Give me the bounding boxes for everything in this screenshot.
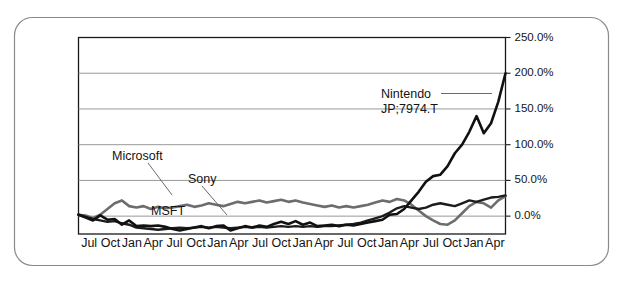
y-tick-label: 50.0% [515, 173, 548, 185]
x-tick-label: Jan [293, 236, 313, 250]
x-tick-label: Oct [101, 236, 121, 250]
sony-label: Sony [188, 172, 217, 186]
x-tick-label: Apr [314, 236, 333, 250]
y-tick-label: 100.0% [515, 138, 554, 150]
x-tick-label: Oct [357, 236, 377, 250]
x-tick-label: Oct [272, 236, 292, 250]
x-tick-label: Jul [252, 236, 268, 250]
y-tick-label: 250.0% [515, 31, 554, 43]
nintendo-ticker-label: JP;7974.T [381, 102, 438, 116]
y-tick-label: 0.0% [515, 209, 541, 221]
x-tick-label: Jan [463, 236, 483, 250]
x-tick-label: Apr [485, 236, 504, 250]
x-tick-label: Jan [207, 236, 227, 250]
x-tick-label: Apr [400, 236, 419, 250]
nintendo-label: Nintendo [381, 87, 431, 101]
x-tick-label: Jul [167, 236, 183, 250]
x-tick-label: Jul [337, 236, 353, 250]
microsoft-label: Microsoft [112, 149, 163, 163]
x-tick-label: Apr [143, 236, 162, 250]
x-tick-label: Jan [122, 236, 142, 250]
microsoft-ticker-label: MSFT [151, 204, 185, 218]
x-tick-label: Oct [442, 236, 462, 250]
y-tick-label: 200.0% [515, 66, 554, 78]
stock-performance-chart: 0.0%50.0%100.0%150.0%200.0%250.0% JulOct… [0, 0, 620, 282]
y-tick-label: 150.0% [515, 102, 554, 114]
x-tick-label: Oct [186, 236, 206, 250]
x-tick-label: Apr [229, 236, 248, 250]
x-tick-label: Jan [378, 236, 398, 250]
x-tick-label: Jul [81, 236, 97, 250]
x-tick-label: Jul [423, 236, 439, 250]
